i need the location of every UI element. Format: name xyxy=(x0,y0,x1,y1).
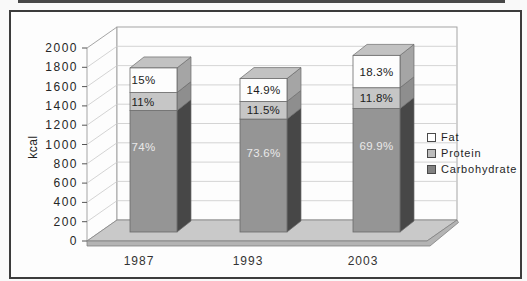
y-axis-tick-label: 1800 xyxy=(45,60,78,74)
category-label-1987: 1987 xyxy=(124,254,155,268)
legend-label-carbohydrate: Carbohydrate xyxy=(441,163,517,175)
legend-label-fat: Fat xyxy=(441,131,459,143)
y-axis-title: kcal xyxy=(26,135,40,158)
bar-segment-side-carbohydrate-2003 xyxy=(400,98,414,232)
category-label-2003: 2003 xyxy=(348,254,379,268)
legend-swatch-carbohydrate xyxy=(427,165,436,174)
bar-segment-carbohydrate-1987 xyxy=(130,111,177,232)
legend-swatch-fat xyxy=(427,133,436,142)
legend-item-protein: Protein xyxy=(427,147,517,159)
percent-label-carbohydrate-1987: 74% xyxy=(132,141,156,153)
y-axis-tick-label: 800 xyxy=(53,157,78,171)
legend-item-fat: Fat xyxy=(427,131,517,143)
percent-label-fat-1993: 14.9% xyxy=(246,84,280,96)
y-axis-tick-label: 400 xyxy=(53,195,78,209)
y-axis-tick-label: 200 xyxy=(53,215,78,229)
y-axis-tick-label: 1000 xyxy=(45,138,78,152)
y-axis-tick-label: 1600 xyxy=(45,80,78,94)
y-axis-tick-label: 0 xyxy=(70,234,78,248)
y-axis-tick-label: 1400 xyxy=(45,99,78,113)
bar-segment-side-carbohydrate-1993 xyxy=(287,108,301,232)
percent-label-fat-1987: 15% xyxy=(132,74,156,86)
percent-label-protein-1987: 11% xyxy=(132,96,155,108)
percent-label-protein-2003: 11.8% xyxy=(360,92,393,104)
legend-swatch-protein xyxy=(427,149,436,158)
figure: 020040060080010001200140016001800200074%… xyxy=(0,0,527,281)
legend-item-carbohydrate: Carbohydrate xyxy=(427,163,517,175)
bar-segment-carbohydrate-1993 xyxy=(240,119,287,232)
legend: Fat Protein Carbohydrate xyxy=(427,131,517,179)
category-label-1993: 1993 xyxy=(233,254,264,268)
bar-segment-carbohydrate-2003 xyxy=(353,109,400,232)
percent-label-carbohydrate-1993: 73.6% xyxy=(246,147,280,159)
percent-label-carbohydrate-2003: 69.9% xyxy=(359,140,393,152)
y-axis-tick-label: 2000 xyxy=(45,41,78,55)
percent-label-fat-2003: 18.3% xyxy=(359,66,393,78)
percent-label-protein-1993: 11.5% xyxy=(247,104,280,116)
y-axis-tick-label: 1200 xyxy=(45,118,78,132)
legend-label-protein: Protein xyxy=(441,147,481,159)
y-axis-tick-label: 600 xyxy=(53,176,78,190)
bar-segment-side-carbohydrate-1987 xyxy=(177,100,191,232)
